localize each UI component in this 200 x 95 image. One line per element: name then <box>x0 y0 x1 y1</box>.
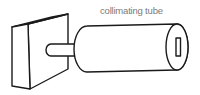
collimating-tube <box>74 24 188 72</box>
connector-rod <box>46 44 76 56</box>
collimator-diagram: collimating tube <box>0 0 200 95</box>
rod-body <box>46 44 76 56</box>
box-front-face <box>12 24 30 89</box>
exit-slit <box>176 38 181 56</box>
tube-label: collimating tube <box>100 5 163 16</box>
